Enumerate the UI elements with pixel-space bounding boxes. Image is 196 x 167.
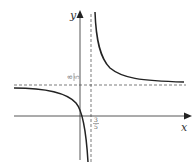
y-axis-arrow-icon	[77, 10, 84, 18]
h-label-num: 8	[66, 75, 73, 79]
vertical-asymptote-label: 3 5	[93, 116, 99, 130]
y-axis-label: y	[69, 9, 77, 22]
v-label-den: 5	[94, 123, 98, 130]
graph-canvas: y x 8 5 3 5	[0, 0, 196, 167]
x-axis-label: x	[181, 121, 188, 134]
x-axis-arrow-icon	[184, 113, 192, 120]
curve-left-branch	[14, 88, 88, 162]
horizontal-asymptote-label: 8 5	[66, 73, 80, 81]
v-label-num: 3	[94, 116, 98, 123]
h-label-den: 5	[73, 75, 80, 79]
curve-right-branch	[95, 12, 184, 82]
